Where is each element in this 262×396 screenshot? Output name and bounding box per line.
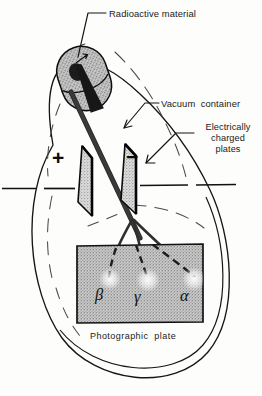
ray-label-gamma: γ bbox=[134, 289, 141, 306]
vacuum-container-outline bbox=[32, 44, 229, 378]
label-radioactive-material: Radioactive material bbox=[109, 8, 196, 19]
positive-plate-sign: + bbox=[52, 147, 64, 168]
label-photographic-plate: Photographic plate bbox=[90, 331, 176, 342]
radiation-separation-figure: Radioactive material Vacuum container El… bbox=[0, 0, 262, 396]
negative-plate-sign: − bbox=[126, 146, 138, 167]
ray-impact-spots bbox=[99, 267, 206, 292]
ray-label-alpha: α bbox=[180, 288, 189, 305]
radioactive-source-capsule bbox=[50, 40, 119, 120]
label-charged-plates: Electrically charged plates bbox=[197, 122, 259, 155]
ray-label-beta: β bbox=[95, 287, 103, 304]
label-vacuum-container: Vacuum container bbox=[161, 98, 240, 109]
positive-charged-plate bbox=[78, 146, 92, 216]
photographic-plate bbox=[77, 244, 206, 323]
